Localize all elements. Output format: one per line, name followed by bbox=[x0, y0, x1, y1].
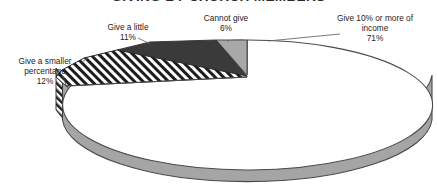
slice-value-give-a-little: 11% bbox=[84, 32, 172, 42]
slice-label-give-smaller-percentage: Give a smaller percentage 12% bbox=[0, 56, 91, 87]
slice-label-give10-line2: income bbox=[362, 23, 389, 33]
slice-label-give-a-little: Give a little 11% bbox=[84, 22, 172, 42]
slice-value-cannot-give: 6% bbox=[178, 23, 274, 33]
slice-label-cannot-give: Cannot give 6% bbox=[178, 13, 274, 33]
slice-label-give-a-little-line1: Give a little bbox=[107, 22, 148, 32]
slice-value-give-smaller: 12% bbox=[0, 76, 91, 86]
slice-value-give10: 71% bbox=[316, 33, 434, 43]
slice-label-give10-line1: Give 10% or more of bbox=[337, 13, 413, 23]
slice-label-give-smaller-line2: percentage bbox=[24, 66, 66, 76]
slice-label-give-smaller-line1: Give a smaller bbox=[18, 56, 71, 66]
slice-label-give10: Give 10% or more of income 71% bbox=[316, 13, 434, 44]
slice-label-cannot-give-line1: Cannot give bbox=[204, 13, 248, 23]
pie-chart-figure: GIVING BY CHURCH MEMBERS bbox=[0, 0, 437, 195]
